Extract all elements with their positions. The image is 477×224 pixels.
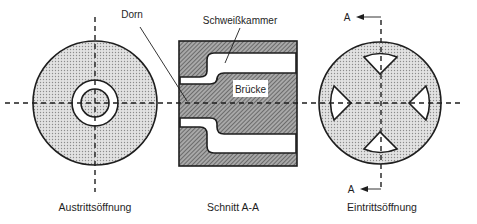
mandrel-label: Dorn bbox=[121, 9, 143, 20]
porthole-die-diagram: Brücke Schweißkammer Dorn A A Austrittsö… bbox=[0, 0, 477, 224]
weld-chamber-label: Schweißkammer bbox=[203, 15, 278, 26]
exit-opening-caption: Austrittsöffnung bbox=[59, 201, 132, 213]
section-marker-top: A bbox=[344, 12, 351, 23]
bridge-label: Brücke bbox=[235, 84, 267, 95]
section-arrow-top-icon bbox=[356, 14, 364, 20]
section-arrow-bottom-icon bbox=[360, 186, 368, 192]
entry-opening-caption: Eintrittsöffnung bbox=[347, 201, 417, 213]
section-caption: Schnitt A-A bbox=[207, 201, 259, 213]
exit-opening-view bbox=[33, 17, 157, 192]
section-marker-bottom: A bbox=[348, 184, 355, 195]
